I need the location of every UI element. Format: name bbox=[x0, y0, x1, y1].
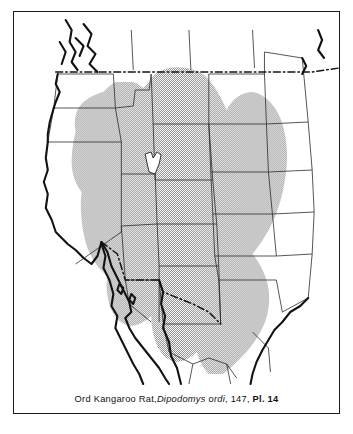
caption-bar: Ord Kangaroo Rat,Dipodomys ordi, 147, Pl… bbox=[14, 385, 339, 413]
caption-common-name: Ord Kangaroo Rat, bbox=[75, 394, 157, 404]
range-map-figure: Ord Kangaroo Rat,Dipodomys ordi, 147, Pl… bbox=[13, 11, 340, 414]
map-svg bbox=[14, 12, 339, 385]
species-range-shading bbox=[14, 12, 339, 385]
caption-plate: Pl. 14 bbox=[253, 394, 279, 404]
caption-scientific-name: Dipodomys ordi bbox=[157, 394, 225, 404]
map-canvas bbox=[14, 12, 339, 385]
figure-caption: Ord Kangaroo Rat,Dipodomys ordi, 147, Pl… bbox=[75, 394, 279, 404]
caption-page-number: , 147, bbox=[225, 394, 253, 404]
